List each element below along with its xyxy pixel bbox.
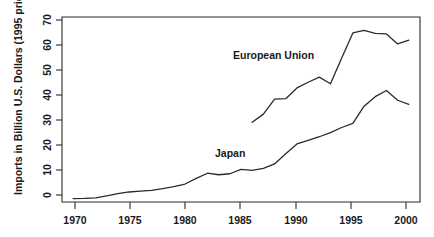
x-tick-label-2000: 2000 (394, 214, 418, 226)
series-line-european-union (252, 30, 409, 122)
y-tick-label-10: 10 (41, 164, 53, 176)
y-tick-label-40: 40 (41, 89, 53, 101)
x-tick-label-1980: 1980 (173, 214, 197, 226)
x-tick-label-1975: 1975 (118, 214, 142, 226)
y-tick-label-30: 30 (41, 114, 53, 126)
y-tick-label-70: 70 (41, 14, 53, 26)
series-label-japan: Japan (215, 147, 245, 159)
x-tick-label-1990: 1990 (284, 214, 308, 226)
y-tick-label-60: 60 (41, 39, 53, 51)
series-label-european-union: European Union (233, 49, 314, 61)
x-tick-label-1995: 1995 (339, 214, 363, 226)
y-tick-label-50: 50 (41, 64, 53, 76)
y-axis: 0 10 20 30 40 50 60 70 (41, 14, 62, 198)
y-tick-label-20: 20 (41, 139, 53, 151)
plot-frame (62, 17, 420, 202)
chart-figure: Imports in Billion U.S. Dollars (1995 pr… (0, 0, 434, 237)
x-axis: 1970 1975 1980 1985 1990 1995 2000 (63, 202, 418, 226)
series-line-japan (73, 90, 409, 198)
imports-line-chart: Imports in Billion U.S. Dollars (1995 pr… (0, 0, 434, 237)
x-tick-label-1970: 1970 (63, 214, 87, 226)
x-tick-label-1985: 1985 (228, 214, 252, 226)
y-axis-title: Imports in Billion U.S. Dollars (1995 pr… (12, 0, 24, 195)
y-tick-label-0: 0 (41, 192, 53, 198)
